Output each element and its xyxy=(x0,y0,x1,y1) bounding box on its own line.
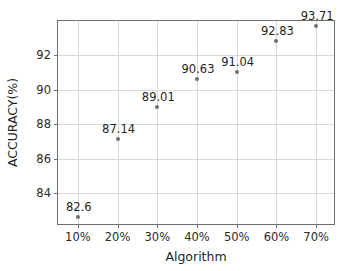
data-point-marker xyxy=(235,70,239,74)
gridline-horizontal xyxy=(58,159,334,160)
y-tick-label: 84 xyxy=(36,186,51,200)
x-tick-mark xyxy=(316,224,317,228)
y-axis-title: ACCURACY(%) xyxy=(5,20,21,225)
x-tick-label: 30% xyxy=(145,230,171,244)
x-axis-title: Algorithm xyxy=(57,249,335,264)
y-tick-label: 86 xyxy=(36,152,51,166)
x-tick-label: 20% xyxy=(105,230,131,244)
x-tick-mark xyxy=(118,224,119,228)
y-tick-mark xyxy=(54,90,58,91)
x-tick-label: 40% xyxy=(184,230,210,244)
data-point-marker xyxy=(195,77,199,81)
x-tick-label: 60% xyxy=(264,230,290,244)
y-tick-mark xyxy=(54,124,58,125)
y-tick-label: 88 xyxy=(36,117,51,131)
data-point-label: 87.14 xyxy=(102,122,135,136)
x-tick-mark xyxy=(197,224,198,228)
data-point-marker xyxy=(155,105,159,109)
gridline-vertical xyxy=(78,21,79,224)
plot-area: 8486889092 10%20%30%40%50%60%70% 82.687.… xyxy=(57,20,335,225)
gridline-horizontal xyxy=(58,124,334,125)
y-tick-label: 90 xyxy=(36,83,51,97)
data-point-label: 93.71 xyxy=(301,9,334,23)
gridline-vertical xyxy=(316,21,317,224)
data-point-marker xyxy=(314,24,318,28)
gridline-horizontal xyxy=(58,90,334,91)
data-point-marker xyxy=(76,215,80,219)
y-tick-mark xyxy=(54,55,58,56)
gridline-horizontal xyxy=(58,193,334,194)
data-point-marker xyxy=(116,137,120,141)
data-point-label: 89.01 xyxy=(142,90,175,104)
x-tick-label: 10% xyxy=(65,230,91,244)
y-tick-mark xyxy=(54,159,58,160)
gridline-vertical xyxy=(276,21,277,224)
x-tick-mark xyxy=(237,224,238,228)
y-axis-title-text: ACCURACY(%) xyxy=(6,78,21,167)
x-tick-mark xyxy=(78,224,79,228)
gridline-vertical xyxy=(237,21,238,224)
x-tick-mark xyxy=(157,224,158,228)
data-point-label: 90.63 xyxy=(182,62,215,76)
y-tick-mark xyxy=(54,193,58,194)
x-tick-label: 50% xyxy=(224,230,250,244)
data-point-label: 82.6 xyxy=(66,200,92,214)
gridline-vertical xyxy=(197,21,198,224)
x-tick-mark xyxy=(276,224,277,228)
data-point-label: 91.04 xyxy=(221,55,254,69)
data-point-label: 92.83 xyxy=(261,24,294,38)
gridline-vertical xyxy=(157,21,158,224)
scatter-chart-figure: 8486889092 10%20%30%40%50%60%70% 82.687.… xyxy=(0,0,353,271)
x-tick-label: 70% xyxy=(303,230,329,244)
gridline-horizontal xyxy=(58,55,334,56)
data-point-marker xyxy=(274,39,278,43)
y-tick-label: 92 xyxy=(36,48,51,62)
